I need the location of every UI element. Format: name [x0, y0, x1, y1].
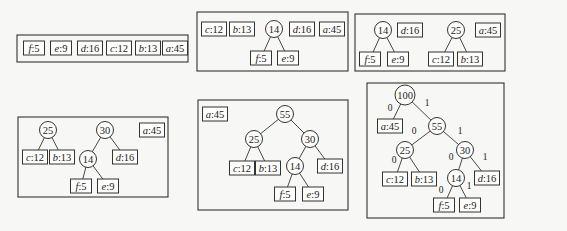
- edge-bit-label: 1: [467, 181, 472, 191]
- leaf-label: e:9: [102, 181, 115, 192]
- node-weight: 14: [290, 161, 301, 172]
- edge-bit-label: 1: [458, 126, 463, 136]
- panel-step4: 253014a:45c:12b:13d:16f:5e:9: [18, 117, 168, 197]
- leaf-label: a:45: [381, 121, 400, 132]
- leaf-label: b:13: [461, 54, 480, 65]
- leaf-c: c:12: [230, 161, 255, 175]
- node-weight: 100: [397, 90, 413, 101]
- leaf-b: b:13: [50, 150, 75, 164]
- leaf-b: b:13: [230, 22, 255, 36]
- leaf-e: e:9: [303, 187, 324, 201]
- leaf-d: d:16: [290, 22, 315, 36]
- internal-node: 25: [40, 122, 57, 139]
- internal-node: 25: [397, 142, 414, 159]
- leaf-a: a:45: [320, 22, 345, 36]
- leaf-f: f:5: [71, 179, 92, 193]
- leaf-label: b:13: [233, 24, 252, 35]
- panel-step3: 1425d:16a:45f:5e:9c:12b:13: [355, 14, 505, 71]
- internal-node: 30: [97, 122, 114, 139]
- leaf-label: d:16: [81, 43, 100, 54]
- internal-node: 30: [457, 142, 474, 159]
- edge-bit-label: 1: [483, 152, 488, 162]
- leaf-label: c:12: [386, 174, 404, 185]
- leaf-label: d:16: [116, 152, 135, 163]
- internal-node: 14: [80, 151, 97, 168]
- leaf-label: e:9: [307, 189, 320, 200]
- edge-bit-label: 1: [425, 98, 430, 108]
- leaf-label: a:45: [479, 25, 498, 36]
- edge-bit-label: 0: [439, 185, 444, 195]
- internal-node: 100: [395, 85, 415, 105]
- node-weight: 30: [460, 145, 471, 156]
- leaf-label: e:9: [392, 54, 405, 65]
- leaf-b: b:13: [458, 52, 483, 66]
- leaf-d: d:16: [113, 150, 138, 164]
- leaf-e: e:9: [460, 198, 481, 212]
- panel-step1: f:5e:9d:16c:12b:13a:45: [17, 35, 188, 62]
- leaf-a: a:45: [203, 107, 228, 121]
- leaf-f: f:5: [275, 187, 296, 201]
- node-weight: 14: [269, 24, 280, 35]
- leaf-label: f:5: [75, 181, 86, 192]
- leaf-d: d:16: [475, 171, 500, 185]
- leaf-f: f:5: [434, 198, 455, 212]
- leaf-label: b:13: [139, 43, 158, 54]
- leaf-e: e:9: [278, 51, 299, 65]
- panel-step5: 55253014a:45c:12b:13d:16f:5e:9: [198, 100, 348, 210]
- leaf-d: d:16: [78, 41, 103, 55]
- leaf-label: c:12: [110, 43, 128, 54]
- internal-node: 14: [287, 158, 304, 175]
- node-weight: 25: [451, 25, 462, 36]
- internal-node: 14: [266, 21, 283, 38]
- panel-step2: 14c:12b:13d:16a:45f:5e:9: [197, 12, 348, 71]
- leaf-b: b:13: [136, 41, 161, 55]
- leaf-label: c:12: [233, 163, 251, 174]
- leaf-b: b:13: [256, 161, 281, 175]
- leaf-a: a:45: [163, 41, 188, 55]
- leaf-c: c:12: [107, 41, 132, 55]
- leaf-label: d:16: [293, 24, 312, 35]
- leaf-a: a:45: [140, 123, 165, 137]
- leaf-label: f:5: [255, 53, 266, 64]
- leaf-e: e:9: [388, 52, 409, 66]
- leaf-d: d:16: [398, 23, 423, 37]
- leaf-label: b:13: [259, 163, 278, 174]
- leaf-label: a:45: [206, 109, 225, 120]
- internal-node: 14: [448, 170, 465, 187]
- leaf-label: b:13: [415, 174, 434, 185]
- leaf-f: f:5: [360, 52, 381, 66]
- leaf-e: e:9: [51, 41, 72, 55]
- leaf-label: a:45: [166, 43, 185, 54]
- leaf-b: b:13: [412, 172, 437, 186]
- leaf-label: f:5: [438, 200, 449, 211]
- leaf-label: e:9: [55, 43, 68, 54]
- leaf-c: c:12: [202, 22, 227, 36]
- leaf-label: b:13: [53, 152, 72, 163]
- node-weight: 14: [451, 173, 462, 184]
- internal-node: 55: [429, 118, 446, 135]
- leaf-e: e:9: [98, 179, 119, 193]
- huffman-diagram: f:5e:9d:16c:12b:13a:4514c:12b:13d:16a:45…: [0, 0, 567, 231]
- leaf-d: d:16: [318, 159, 343, 173]
- node-weight: 25: [249, 134, 260, 145]
- leaf-a: a:45: [378, 119, 403, 133]
- node-weight: 55: [432, 121, 443, 132]
- leaf-label: d:16: [478, 173, 497, 184]
- internal-node: 55: [277, 106, 294, 123]
- internal-node: 14: [375, 22, 392, 39]
- leaf-f: f:5: [24, 41, 45, 55]
- edge-bit-label: 0: [449, 152, 454, 162]
- leaf-label: a:45: [323, 24, 342, 35]
- leaf-label: c:12: [26, 152, 44, 163]
- leaf-c: c:12: [383, 172, 408, 186]
- node-weight: 55: [280, 109, 291, 120]
- leaf-label: f:5: [279, 189, 290, 200]
- node-weight: 25: [43, 125, 54, 136]
- leaf-label: e:9: [464, 200, 477, 211]
- leaf-label: f:5: [364, 54, 375, 65]
- leaf-label: c:12: [205, 24, 223, 35]
- node-weight: 30: [305, 134, 316, 145]
- leaf-a: a:45: [476, 23, 501, 37]
- leaf-label: d:16: [401, 25, 420, 36]
- edge-bit-label: 0: [412, 126, 417, 136]
